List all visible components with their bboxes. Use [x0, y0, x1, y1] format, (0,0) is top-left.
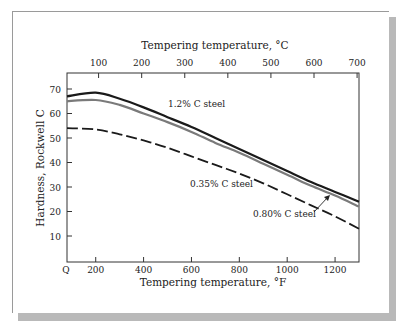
x2-tick-label: 600: [305, 58, 322, 68]
x-axis-title: Tempering temperature, °F: [140, 276, 287, 288]
label-1-2-c-steel: 1.2% C steel: [168, 99, 225, 109]
y-tick-label: 10: [50, 232, 62, 242]
x-tick-label: 1000: [276, 265, 299, 275]
x-tick-label: Q: [62, 265, 69, 275]
y-tick-label: 60: [50, 109, 62, 119]
x2-tick-label: 400: [219, 58, 236, 68]
x-tick-label: 1200: [324, 265, 347, 275]
y-tick-label: 40: [50, 158, 62, 168]
x2-tick-label: 200: [133, 58, 150, 68]
y-tick-label: 50: [50, 134, 62, 144]
x2-tick-label: 300: [176, 58, 193, 68]
y-tick-label: 20: [50, 207, 62, 217]
y-axis: 10203040506070: [50, 85, 72, 242]
x2-tick-label: 100: [90, 58, 107, 68]
x-tick-label: 200: [87, 265, 104, 275]
x-axis-celsius: 100200300400500600700: [90, 58, 366, 78]
x2-tick-label: 500: [262, 58, 279, 68]
x-tick-label: 800: [231, 265, 248, 275]
x-tick-label: 600: [183, 265, 200, 275]
hardness-chart: 10203040506070 Q20040060080010001200 100…: [0, 0, 409, 335]
annotation-arrow: [314, 197, 328, 212]
label-0-35-c-steel: 0.35% C steel: [190, 179, 253, 189]
series-line: [67, 100, 359, 207]
y-tick-label: 70: [50, 85, 62, 95]
y-tick-label: 30: [50, 183, 62, 193]
label-0-80-c-steel: 0.80% C steel: [253, 209, 316, 219]
x2-axis-title: Tempering temperature, °C: [141, 39, 288, 51]
x-axis-fahrenheit: Q20040060080010001200: [62, 257, 346, 275]
x-tick-label: 400: [135, 265, 152, 275]
x2-tick-label: 700: [348, 58, 365, 68]
y-axis-title: Hardness, Rockwell C: [34, 109, 46, 226]
